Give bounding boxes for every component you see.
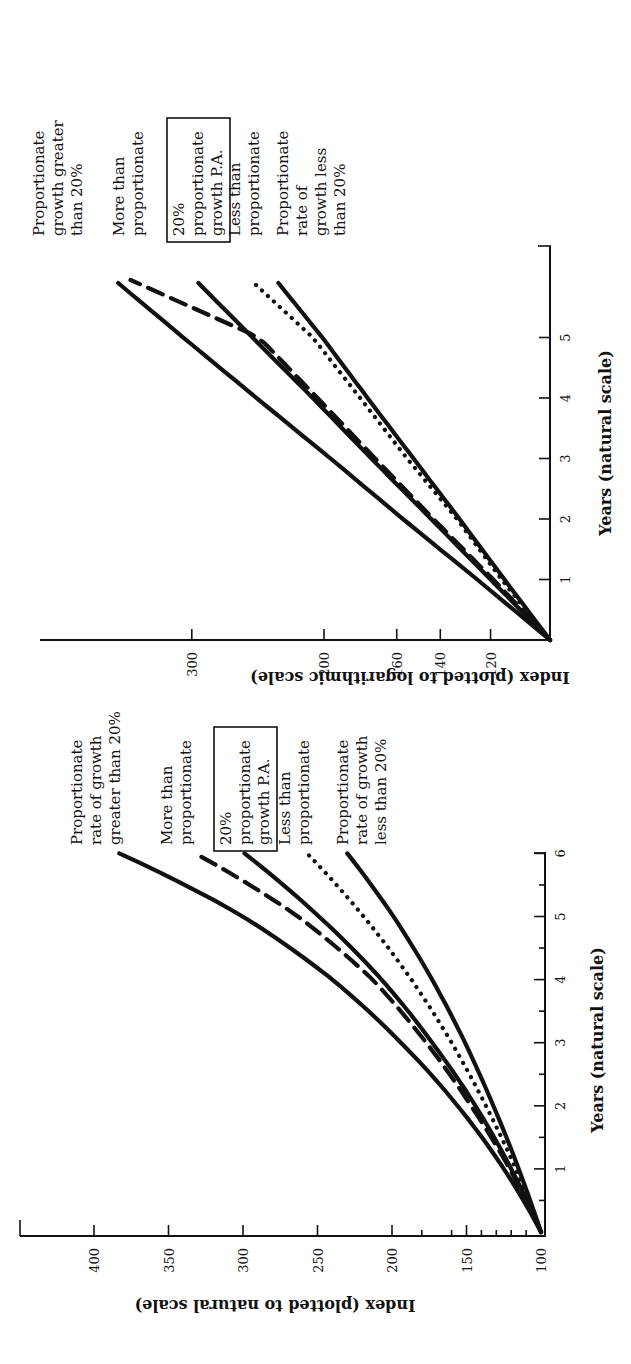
year-tick-label: 4 <box>553 975 568 983</box>
year-tick-label: 3 <box>553 1039 568 1047</box>
year-tick-label: 1 <box>558 575 573 583</box>
year-tick-label: 4 <box>558 394 573 402</box>
series-label-3: 20%proportionategrowth P.A. <box>167 118 230 242</box>
series-label-line: rate of growth <box>353 735 371 845</box>
natural-year-ticks: 123456 <box>534 849 568 1200</box>
series-label-4: Less thanproportionate <box>226 131 263 236</box>
log-x-axis-title: Years (natural scale) <box>596 350 615 537</box>
figure: 120140160200300 12345 Index (plotted to … <box>0 0 631 1364</box>
index-tick-label: 150 <box>460 1248 475 1273</box>
series-label-line: Proportionate <box>30 130 48 236</box>
log-series-labels: Proportionategrowth greaterthan 20%More … <box>30 118 349 242</box>
natural-series-group <box>119 853 541 1232</box>
series-label-line: proportionate <box>129 131 147 236</box>
series-label-line: 20% <box>217 812 235 845</box>
natural-index-ticks: 100150200250300350400 <box>87 1225 549 1273</box>
series-label-5: Proportionaterate ofgrowth lessthan 20% <box>274 130 349 236</box>
series-label-line: Proportionate <box>68 739 86 845</box>
series-label-line: than 20% <box>331 164 349 236</box>
series-line-2 <box>195 853 541 1232</box>
natural-chart: 100150200250300350400 123456 Index (plot… <box>20 711 607 1315</box>
series-label-line: proportionate <box>189 131 207 236</box>
series-label-3: 20%proportionategrowth P.A. <box>214 727 277 851</box>
series-line-1 <box>119 853 541 1232</box>
series-line-5 <box>278 283 550 640</box>
series-label-line: greater than 20% <box>106 711 124 845</box>
series-label-line: More than <box>110 156 128 236</box>
index-tick-label: 400 <box>87 1248 102 1273</box>
series-label-5: Proportionaterate of growthless than 20% <box>334 735 390 845</box>
series-label-line: growth less <box>312 148 330 236</box>
natural-series-labels: Proportionaterate of growthgreater than … <box>68 711 390 851</box>
series-line-4 <box>254 283 550 640</box>
log-series-group <box>118 280 550 640</box>
series-label-line: rate of growth <box>87 735 105 845</box>
year-tick-label: 5 <box>558 333 573 341</box>
index-tick-label: 250 <box>311 1248 326 1273</box>
index-tick-label: 350 <box>162 1248 177 1273</box>
series-label-line: More than <box>158 765 176 845</box>
series-label-2: More thanproportionate <box>158 740 195 845</box>
series-label-line: proportionate <box>177 740 195 845</box>
year-tick-label: 1 <box>553 1165 568 1173</box>
index-tick-label: 100 <box>534 1248 549 1273</box>
series-label-line: Proportionate <box>334 739 352 845</box>
year-tick-label: 5 <box>553 912 568 920</box>
series-label-line: rate of <box>293 184 311 236</box>
year-tick-label: 2 <box>553 1102 568 1110</box>
year-tick-label: 3 <box>558 454 573 462</box>
series-label-line: less than 20% <box>372 739 390 845</box>
natural-x-axis-title: Years (natural scale) <box>588 947 607 1134</box>
log-chart: 120140160200300 12345 Index (plotted to … <box>30 118 615 687</box>
log-y-axis-title: Index (plotted to logarithmic scale) <box>250 668 570 687</box>
series-label-line: growth greater <box>49 119 67 236</box>
year-tick-label: 2 <box>558 515 573 523</box>
series-line-3 <box>198 283 550 640</box>
series-label-line: 20% <box>170 203 188 236</box>
series-label-line: proportionate <box>236 740 254 845</box>
series-label-line: proportionate <box>295 740 313 845</box>
series-label-line: Less than <box>276 771 294 845</box>
series-label-line: Proportionate <box>274 130 292 236</box>
series-label-line: than 20% <box>68 164 86 236</box>
series-line-1 <box>118 283 550 640</box>
natural-y-axis-title: Index (plotted to natural scale) <box>135 1296 416 1315</box>
series-label-1: Proportionategrowth greaterthan 20% <box>30 119 86 236</box>
index-tick-label: 300 <box>185 652 200 677</box>
series-label-line: proportionate <box>245 131 263 236</box>
index-tick-label: 200 <box>385 1248 400 1273</box>
series-label-line: growth P.A. <box>208 149 226 236</box>
series-label-4: Less thanproportionate <box>276 740 313 845</box>
series-label-line: growth P.A. <box>255 758 273 845</box>
index-tick-label: 300 <box>236 1248 251 1273</box>
log-year-ticks: 12345 <box>539 333 573 583</box>
series-label-2: More thanproportionate <box>110 131 147 236</box>
series-label-line: Less than <box>226 162 244 236</box>
series-label-1: Proportionaterate of growthgreater than … <box>68 711 124 845</box>
year-tick-label: 6 <box>553 849 568 857</box>
